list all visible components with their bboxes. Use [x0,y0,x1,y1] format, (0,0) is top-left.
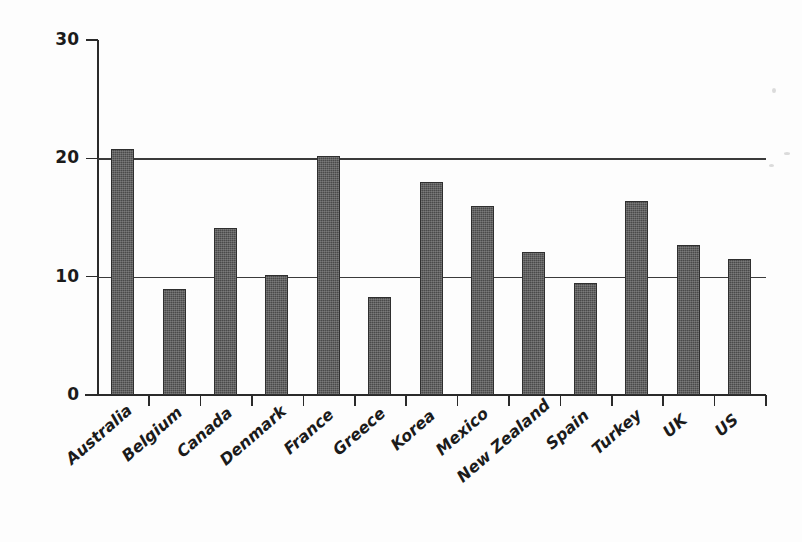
plot-area: 0102030 AustraliaBelgiumCanadaDenmarkFra… [0,0,802,542]
bar [728,259,751,395]
x-tick-mark [611,395,613,406]
y-tick-mark [86,276,98,278]
bar [265,275,288,395]
x-tick-mark [662,395,664,406]
scan-speckle [769,164,774,167]
bar [677,245,700,395]
scan-speckle [772,88,776,93]
x-tick-label: New Zealand [453,395,554,486]
bar [625,201,648,395]
x-tick-mark [354,395,356,406]
x-tick-mark [765,395,767,406]
chart-figure: Rate of Return (%) 0102030 AustraliaBelg… [0,0,802,542]
x-tick-mark [148,395,150,406]
bar [111,149,134,395]
x-tick-label: UK [659,410,691,441]
y-tick-mark [86,394,98,396]
bar [420,182,443,395]
x-tick-mark [251,395,253,406]
x-tick-mark [200,395,202,406]
y-tick-mark [86,39,98,41]
gridline [97,158,766,159]
x-tick-label: Korea [387,406,439,454]
bar [471,206,494,395]
y-tick-label: 20 [39,149,79,166]
y-tick-label: 0 [39,386,79,403]
x-tick-mark [508,395,510,406]
bar [522,252,545,395]
x-tick-mark [303,395,305,406]
y-tick-label: 30 [39,31,79,48]
scan-speckle [784,152,790,155]
x-tick-mark [405,395,407,406]
y-tick-mark [86,158,98,160]
bar [163,289,186,396]
y-axis-line [97,40,99,396]
bar [317,156,340,395]
x-tick-mark [714,395,716,406]
y-tick-label: 10 [39,268,79,285]
x-tick-mark [560,395,562,406]
bar [574,283,597,395]
x-tick-mark [457,395,459,406]
bar [368,297,391,395]
x-tick-label: Turkey [588,405,645,458]
x-tick-label: Greece [329,404,389,460]
bar [214,228,237,395]
x-tick-label: US [711,410,742,440]
